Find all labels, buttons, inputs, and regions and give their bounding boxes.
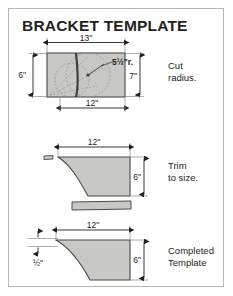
step3-note-line1: Completed xyxy=(168,245,214,257)
step1-note-line2: radius. xyxy=(168,72,197,84)
step1-radius-label: 5½"r. xyxy=(112,57,133,67)
step3-top-width-label: 12" xyxy=(87,220,99,230)
step3-note: Completed Template xyxy=(168,245,214,268)
step3-note-line2: Template xyxy=(168,257,214,269)
step1-note-line1: Cut xyxy=(168,60,197,72)
step1-note: Cut radius. xyxy=(168,60,197,83)
step3-bracket-shape xyxy=(56,240,130,280)
step2-note-line2: to size. xyxy=(168,172,198,184)
step2-top-width-label: 12" xyxy=(88,137,100,147)
step3-right-height-label: 6" xyxy=(133,255,141,265)
bracket-template-figure: BRACKET TEMPLATE 13" xyxy=(0,0,233,296)
step1-left-height-dim: 6" xyxy=(18,54,47,97)
step2-right-height-label: 6" xyxy=(133,172,141,182)
step3-thickness-label: ½" xyxy=(33,258,43,268)
step2-note-line1: Trim xyxy=(168,160,198,172)
step1-bottom-width-label: 12" xyxy=(86,98,98,108)
step3-thickness-dim: ½" xyxy=(28,231,58,268)
step2-right-height-dim: 6" xyxy=(130,157,148,196)
step2-note: Trim to size. xyxy=(168,160,198,183)
step3-right-height-dim: 6" xyxy=(130,240,148,280)
step1-top-width-label: 13" xyxy=(80,33,92,43)
step1-right-height-label: 7" xyxy=(129,71,137,81)
step2-waste-strip xyxy=(72,201,131,210)
step1-left-height-label: 6" xyxy=(18,70,26,80)
step3-top-dim: 12" xyxy=(56,220,130,241)
step2-top-dim: 12" xyxy=(58,137,130,158)
step2-bracket-shape xyxy=(58,157,130,196)
step2-offcut-sliver xyxy=(44,156,53,160)
